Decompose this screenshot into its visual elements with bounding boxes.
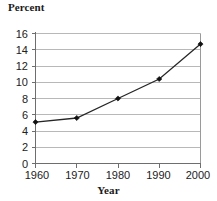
y-tick-label: 10 — [16, 76, 28, 88]
gridlines — [36, 34, 201, 148]
y-tick-labels: 16 14 12 10 8 6 4 2 0 — [16, 28, 28, 170]
x-tick-labels: 1960 1970 1980 1990 2000 — [25, 169, 210, 181]
x-tick-label: 1990 — [146, 169, 170, 181]
y-tick-label: 2 — [22, 141, 28, 153]
x-axis-title: Year — [0, 184, 217, 196]
y-tick-label: 8 — [22, 93, 28, 105]
x-tick-marks — [36, 164, 201, 168]
y-tick-label: 6 — [22, 109, 28, 121]
y-tick-label: 4 — [22, 125, 28, 137]
data-point-1980 — [115, 96, 120, 101]
line-chart: Percent — [0, 0, 217, 201]
x-tick-label: 2000 — [186, 169, 210, 181]
x-tick-label: 1980 — [106, 169, 130, 181]
x-tick-label: 1970 — [65, 169, 89, 181]
data-point-1960 — [33, 119, 38, 124]
data-series-line — [36, 44, 201, 122]
plot-area: 16 14 12 10 8 6 4 2 0 1960 1970 1980 199… — [0, 0, 217, 201]
y-tick-label: 16 — [16, 28, 28, 40]
data-series-markers — [33, 41, 203, 124]
y-tick-label: 14 — [16, 44, 28, 56]
data-point-1970 — [74, 115, 79, 120]
x-tick-label: 1960 — [25, 169, 49, 181]
y-tick-label: 0 — [22, 158, 28, 170]
y-tick-label: 12 — [16, 60, 28, 72]
